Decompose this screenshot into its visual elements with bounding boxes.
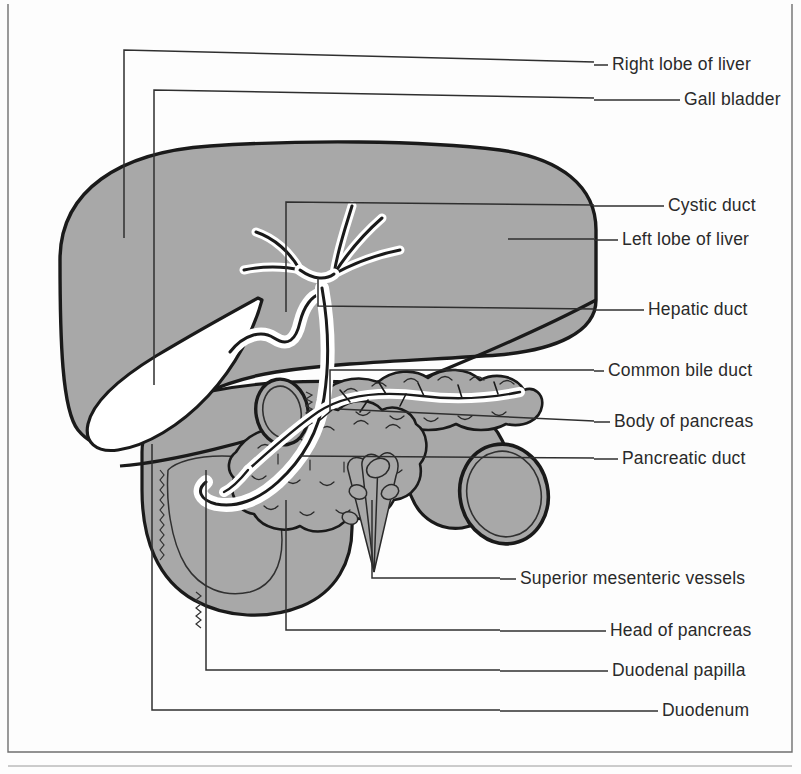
figure-page: Right lobe of liverGall bladderCystic du… (0, 0, 801, 774)
label-pancreatic-duct: Pancreatic duct (622, 448, 746, 468)
label-head-of-pancreas: Head of pancreas (610, 620, 751, 640)
anatomy-diagram: Right lobe of liverGall bladderCystic du… (0, 0, 801, 774)
label-common-bile-duct: Common bile duct (608, 360, 752, 380)
label-gall-bladder: Gall bladder (684, 89, 781, 109)
label-duodenal-papilla: Duodenal papilla (612, 660, 746, 680)
label-right-lobe-of-liver: Right lobe of liver (612, 54, 751, 74)
label-body-of-pancreas: Body of pancreas (614, 411, 753, 431)
label-cystic-duct: Cystic duct (668, 195, 756, 215)
label-duodenum: Duodenum (662, 700, 749, 720)
label-layer: Right lobe of liverGall bladderCystic du… (500, 54, 781, 720)
label-left-lobe-of-liver: Left lobe of liver (622, 229, 749, 249)
label-hepatic-duct: Hepatic duct (648, 299, 748, 319)
label-superior-mesenteric-vessels: Superior mesenteric vessels (520, 568, 745, 588)
